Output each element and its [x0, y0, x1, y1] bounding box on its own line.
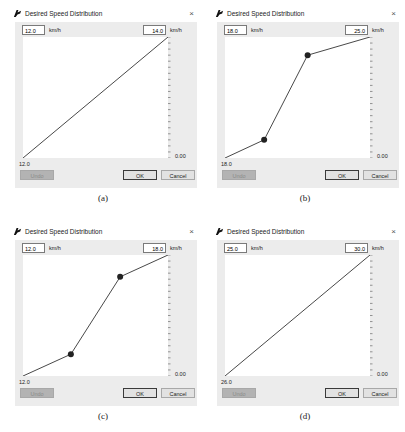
speed-distribution-dialog-b: Desired Speed Distribution × 18.0 km/h 2… [205, 0, 405, 212]
min-speed-input[interactable]: 18.0 [224, 25, 247, 35]
cancel-button[interactable]: Cancel [161, 388, 195, 398]
speed-distribution-dialog-d: Desired Speed Distribution × 25.0 km/h 3… [205, 218, 405, 430]
max-speed-unit: km/h [170, 243, 182, 253]
min-speed-unit: km/h [49, 25, 61, 35]
min-speed-unit: km/h [49, 243, 61, 253]
ok-button[interactable]: OK [325, 170, 359, 180]
app-icon [215, 227, 224, 236]
control-point-handle[interactable] [68, 351, 74, 357]
distribution-line [23, 37, 168, 158]
undo-button[interactable]: Undo [20, 388, 54, 398]
distribution-line [23, 255, 168, 376]
distribution-chart[interactable] [225, 255, 370, 376]
distribution-chart[interactable] [225, 37, 370, 158]
x-axis-min-label: 18.0 [221, 161, 232, 167]
control-point-handle[interactable] [305, 52, 311, 58]
y-axis-zero-label: 0.00 [377, 371, 388, 377]
title-bar: Desired Speed Distribution × [215, 8, 400, 22]
y-axis-zero-label: 0.00 [175, 153, 186, 159]
figure-caption: (a) [3, 193, 203, 203]
ok-button[interactable]: OK [123, 170, 157, 180]
max-speed-unit: km/h [372, 25, 384, 35]
max-speed-unit: km/h [170, 25, 182, 35]
dialog-title: Desired Speed Distribution [25, 8, 102, 20]
cancel-button[interactable]: Cancel [363, 170, 397, 180]
undo-button[interactable]: Undo [20, 170, 54, 180]
figure-caption: (d) [205, 411, 405, 421]
distribution-chart[interactable] [23, 255, 168, 376]
distribution-line [225, 255, 370, 376]
cancel-button[interactable]: Cancel [363, 388, 397, 398]
max-speed-input[interactable]: 25.0 [345, 25, 368, 35]
min-speed-unit: km/h [251, 25, 263, 35]
min-speed-input[interactable]: 12.0 [22, 243, 45, 253]
ok-button[interactable]: OK [123, 388, 157, 398]
title-bar: Desired Speed Distribution × [13, 226, 198, 240]
close-icon[interactable]: × [189, 8, 194, 20]
distribution-line [225, 37, 370, 158]
y-axis-ticks [370, 37, 374, 158]
control-point-handle[interactable] [261, 137, 267, 143]
dialog-body: 25.0 km/h 30.0 km/h 0.00 26.0 Undo OK Ca… [217, 240, 399, 406]
dialog-title: Desired Speed Distribution [227, 226, 304, 238]
figure-caption: (c) [3, 411, 203, 421]
ok-button[interactable]: OK [325, 388, 359, 398]
close-icon[interactable]: × [189, 226, 194, 238]
dialog-title: Desired Speed Distribution [25, 226, 102, 238]
y-axis-ticks [168, 37, 172, 158]
app-icon [13, 227, 22, 236]
y-axis-zero-label: 0.00 [377, 153, 388, 159]
dialog-body: 18.0 km/h 25.0 km/h 0.00 18.0 Undo OK Ca… [217, 22, 399, 188]
title-bar: Desired Speed Distribution × [215, 226, 400, 240]
figure-caption: (b) [205, 193, 405, 203]
app-icon [215, 9, 224, 18]
x-axis-min-label: 12.0 [19, 379, 30, 385]
close-icon[interactable]: × [391, 8, 396, 20]
y-axis-zero-label: 0.00 [175, 371, 186, 377]
y-axis-ticks [168, 255, 172, 376]
cancel-button[interactable]: Cancel [161, 170, 195, 180]
control-point-handle[interactable] [117, 274, 123, 280]
speed-distribution-dialog-a: Desired Speed Distribution × 12.0 km/h 1… [3, 0, 203, 212]
dialog-title: Desired Speed Distribution [227, 8, 304, 20]
undo-button[interactable]: Undo [222, 388, 256, 398]
max-speed-input[interactable]: 14.0 [143, 25, 166, 35]
distribution-chart[interactable] [23, 37, 168, 158]
x-axis-min-label: 26.0 [221, 379, 232, 385]
app-icon [13, 9, 22, 18]
min-speed-input[interactable]: 25.0 [224, 243, 247, 253]
max-speed-unit: km/h [372, 243, 384, 253]
dialog-body: 12.0 km/h 14.0 km/h 0.00 12.0 Undo OK Ca… [15, 22, 197, 188]
undo-button[interactable]: Undo [222, 170, 256, 180]
max-speed-input[interactable]: 18.0 [143, 243, 166, 253]
title-bar: Desired Speed Distribution × [13, 8, 198, 22]
min-speed-input[interactable]: 12.0 [22, 25, 45, 35]
y-axis-ticks [370, 255, 374, 376]
max-speed-input[interactable]: 30.0 [345, 243, 368, 253]
close-icon[interactable]: × [391, 226, 396, 238]
x-axis-min-label: 12.0 [19, 161, 30, 167]
dialog-body: 12.0 km/h 18.0 km/h 0.00 12.0 Undo OK Ca… [15, 240, 197, 406]
min-speed-unit: km/h [251, 243, 263, 253]
speed-distribution-dialog-c: Desired Speed Distribution × 12.0 km/h 1… [3, 218, 203, 430]
